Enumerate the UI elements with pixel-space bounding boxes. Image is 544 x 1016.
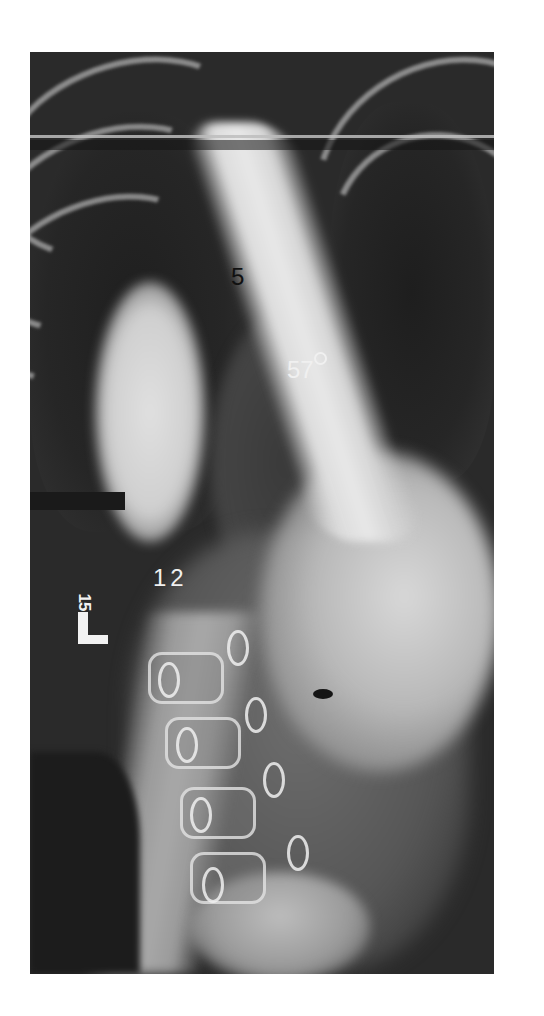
- vertebra-label-lower: 12: [153, 566, 188, 590]
- pedicle: [287, 835, 309, 871]
- mediastinum: [210, 312, 360, 612]
- pedicle: [227, 630, 249, 666]
- vertebra-label-upper: 5: [231, 265, 244, 289]
- side-marker-l-foot: [78, 635, 108, 644]
- pedicle: [176, 727, 198, 763]
- cobb-angle-value: 57: [287, 358, 314, 382]
- degree-icon: [314, 352, 327, 365]
- film-dark-bar: [30, 492, 125, 510]
- pedicle: [202, 867, 224, 903]
- pedicle: [245, 697, 267, 733]
- pedicle: [158, 662, 180, 698]
- vertebra-body: [190, 852, 266, 904]
- bowel-gas-bubble: [313, 689, 333, 699]
- lower-left-air-shadow: [30, 752, 140, 974]
- side-marker-number: 15: [74, 594, 94, 611]
- pedicle: [190, 797, 212, 833]
- liver-shadow: [260, 452, 494, 772]
- pedicle: [263, 762, 285, 798]
- xray-image: 15 5 57 12: [30, 52, 494, 974]
